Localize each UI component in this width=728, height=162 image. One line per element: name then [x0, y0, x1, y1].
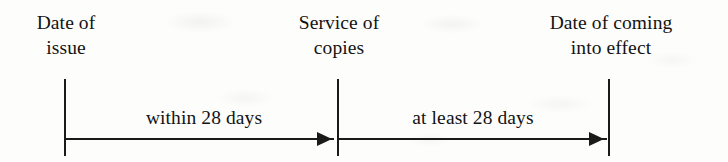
- node-label-date-of-coming-into-effect: Date of coming into effect: [550, 10, 673, 61]
- node-label-line-1: Date of coming: [550, 10, 673, 35]
- interval-label-at-least-28-days: at least 28 days: [412, 107, 533, 129]
- arrow-right-icon: [317, 132, 332, 146]
- timeline-arrow-shaft-second: [337, 138, 607, 140]
- node-label-line-2: issue: [37, 35, 96, 60]
- node-label-line-2: copies: [299, 35, 380, 60]
- timeline-diagram: Date of issue Service of copies Date of …: [0, 0, 728, 162]
- interval-label-within-28-days: within 28 days: [146, 107, 262, 129]
- timeline-tick-date-of-issue: [64, 79, 66, 156]
- node-label-line-1: Service of: [299, 10, 380, 35]
- arrow-right-icon: [589, 132, 604, 146]
- timeline-arrow-shaft-first: [64, 138, 334, 140]
- timeline-tick-service-of-copies: [337, 79, 339, 156]
- timeline-tick-date-of-coming-into-effect: [608, 79, 610, 156]
- node-label-line-1: Date of: [37, 10, 96, 35]
- node-label-date-of-issue: Date of issue: [37, 10, 96, 61]
- node-label-line-2: into effect: [550, 35, 673, 60]
- node-label-service-of-copies: Service of copies: [299, 10, 380, 61]
